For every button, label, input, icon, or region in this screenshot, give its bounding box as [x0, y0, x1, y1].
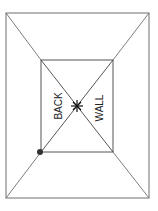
label-back: BACK	[53, 92, 64, 120]
label-wall: WALL	[94, 94, 105, 121]
vanishing-point-star-icon	[71, 100, 83, 112]
edge-bottom-left	[6, 152, 41, 198]
edge-bottom-right	[113, 152, 149, 198]
room-perspective-diagram: BACK WALL	[0, 0, 158, 211]
edge-top-left	[6, 13, 41, 60]
corner-marker-dot	[37, 149, 43, 155]
edge-top-right	[113, 13, 149, 60]
